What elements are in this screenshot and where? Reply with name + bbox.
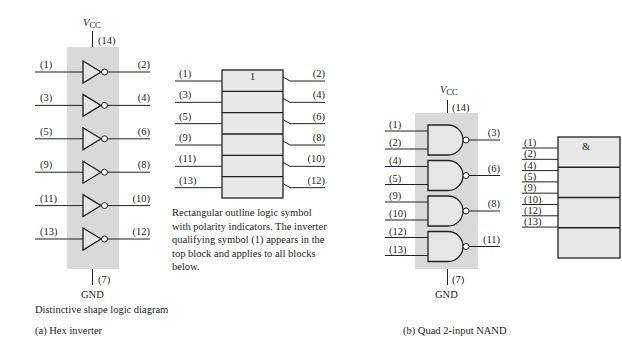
inverter-qualifier-symbol: 1 [250,71,255,82]
output-pin-label: (10) [133,193,151,205]
input-pin-label: (11) [179,153,197,165]
quad-nand-rectangular-symbol: (1)(2)(4)(5)(9)(10)(12)(13) & [522,137,620,258]
input-pin-label: (9) [179,132,192,144]
and-qualifier-symbol: & [582,141,590,152]
input-pin-label: (13) [40,226,58,238]
inversion-bubble [102,69,108,75]
nand-body [428,125,463,155]
output-pin-label: (12) [133,226,151,238]
input-pin-label: (12) [389,226,407,238]
nand-body [428,232,463,262]
input-pin-label: (5) [389,173,402,185]
distinctive-shape-caption: Distinctive shape logic diagram [35,304,168,315]
figure-caption-a: (a) Hex inverter [35,325,103,337]
input-pin-label: (1) [524,137,537,149]
nand-gate: (1)(2)(3) [385,119,500,155]
input-pin-label: (9) [524,182,537,194]
nand-gate: (12)(13)(11) [385,226,500,262]
nand-gate: (4)(5)(6) [385,155,500,191]
input-pin-label: (1) [389,119,402,131]
rect-symbol-caption-line: top block and applies to all blocks [172,248,315,259]
output-pin-label: (10) [308,153,326,165]
input-pin-label: (2) [524,148,537,160]
input-pin-label: (9) [40,159,53,171]
nand-gate: (9)(10)(8) [385,190,500,226]
vcc-pin-label: (14) [98,35,116,47]
rect-symbol-caption-line: with polarity indicators. The inverter [172,221,327,232]
inversion-bubble [463,208,469,214]
rect-symbol-caption-line: Rectangular outline logic symbol [172,207,312,218]
output-pin-label: (8) [138,159,151,171]
output-pin-label: (6) [488,163,501,175]
input-pin-label: (12) [524,205,542,217]
inversion-bubble [463,244,469,250]
input-pin-label: (2) [389,137,402,149]
inversion-bubble [102,236,108,242]
inversion-bubble [102,136,108,142]
inversion-bubble [102,203,108,209]
vcc-label: VCC [440,84,458,97]
rect-symbol-caption-line: qualifying symbol (1) appears in the [172,234,325,246]
output-pin-label: (3) [488,127,501,139]
output-pin-label: (2) [313,68,326,80]
input-pin-label: (13) [524,216,542,228]
output-pin-label: (4) [138,92,151,104]
logic-symbols-figure: VCC (14) (7) GND (1)(2)(3)(4)(5)(6)(9)(8… [0,0,622,341]
gnd-label: GND [81,289,104,300]
output-pin-label: (8) [313,132,326,144]
input-pin-label: (13) [179,175,197,187]
vcc-label: VCC [83,17,101,30]
output-pin-label: (8) [488,198,501,210]
input-pin-label: (10) [389,208,407,220]
output-pin-label: (2) [138,59,151,71]
nand-body [428,161,463,191]
input-pin-label: (3) [179,89,192,101]
output-pin-label: (4) [313,89,326,101]
gnd-pin-label: (7) [98,274,111,286]
input-pin-label: (13) [389,244,407,256]
inversion-bubble [102,102,108,108]
gnd-pin-label: (7) [452,274,465,286]
input-pin-label: (5) [179,111,192,123]
input-pin-label: (5) [524,171,537,183]
input-pin-label: (4) [389,155,402,167]
rect-symbol-caption-line: below. [172,261,200,272]
output-pin-label: (6) [313,111,326,123]
nand-body [428,196,463,226]
input-pin-label: (4) [524,160,537,172]
hex-inverter-distinctive-diagram: VCC (14) (7) GND (1)(2)(3)(4)(5)(6)(9)(8… [35,17,168,315]
output-pin-label: (12) [308,175,326,187]
quad-nand-distinctive-diagram: VCC (14) (7) GND (1)(2)(3)(4)(5)(6)(9)(1… [385,84,500,300]
input-pin-label: (1) [179,68,192,80]
input-pin-label: (11) [40,193,58,205]
output-pin-label: (6) [138,126,151,138]
input-pin-label: (9) [389,190,402,202]
inversion-bubble [102,169,108,175]
inversion-bubble [463,173,469,179]
gnd-label: GND [435,289,458,300]
output-pin-label: (11) [483,234,501,246]
figure-caption-b: (b) Quad 2-input NAND [403,325,507,337]
inversion-bubble [463,137,469,143]
vcc-pin-label: (14) [452,102,470,114]
input-pin-label: (10) [524,194,542,206]
input-pin-label: (1) [40,59,53,71]
input-pin-label: (5) [40,126,53,138]
hex-inverter-rectangular-symbol: (1)(2)(3)(4)(5)(6)(9)(8)(11)(10)(13)(12)… [172,68,327,272]
input-pin-label: (3) [40,92,53,104]
